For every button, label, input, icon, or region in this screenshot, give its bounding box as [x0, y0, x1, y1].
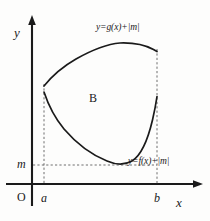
- upper-curve-g: [44, 43, 157, 86]
- y-axis: [28, 15, 36, 206]
- figure-canvas: y x O a b m B y=g(x)+|m| y=f(x)+|m|: [0, 0, 210, 221]
- upper-curve-label: y=g(x)+|m|: [96, 23, 139, 33]
- x-axis-label: x: [176, 196, 182, 209]
- tick-label-m: m: [17, 158, 26, 170]
- y-axis-arrowhead: [28, 15, 36, 25]
- y-axis-label: y: [14, 26, 20, 39]
- x-axis: [6, 180, 203, 188]
- origin-label: O: [17, 191, 26, 203]
- x-axis-arrowhead: [193, 180, 203, 188]
- coordinate-plot-svg: [0, 0, 210, 221]
- region-label-b: B: [89, 92, 97, 104]
- tick-label-b: b: [154, 192, 160, 204]
- lower-curve-label: y=f(x)+|m|: [128, 157, 169, 167]
- lower-curve-f: [44, 92, 157, 164]
- tick-label-a: a: [41, 192, 47, 204]
